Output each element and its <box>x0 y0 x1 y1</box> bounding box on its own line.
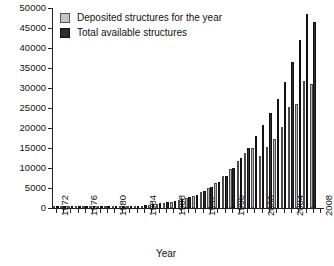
x-axis-tick-mark <box>188 209 189 213</box>
x-axis-tick-mark <box>159 209 160 213</box>
x-axis-tick-label: 2008 <box>324 195 334 216</box>
bar-total <box>56 206 58 208</box>
bar-total <box>203 191 205 208</box>
x-axis-tick-mark <box>225 209 226 213</box>
bar-total <box>93 206 95 208</box>
bar-total <box>269 113 271 208</box>
bar-total <box>196 195 198 208</box>
y-axis-tick-label: 35000 <box>0 63 46 73</box>
bar-deposited <box>112 206 114 208</box>
bar-deposited <box>53 206 55 208</box>
bar-deposited <box>295 104 297 209</box>
bar-total <box>255 136 257 208</box>
bar-total <box>299 40 301 208</box>
x-axis-tick-mark <box>78 209 79 213</box>
x-axis-tick-mark <box>262 209 263 213</box>
x-axis-tick-mark <box>313 209 314 213</box>
bar-total <box>232 168 234 208</box>
bars-layer <box>52 8 324 208</box>
bar-total <box>277 99 279 208</box>
x-axis-tick-mark <box>144 209 145 213</box>
x-axis-tick-mark <box>210 209 211 213</box>
bar-deposited <box>266 147 268 208</box>
bar-total <box>247 148 249 208</box>
bar-deposited <box>126 206 128 208</box>
bar-deposited <box>60 206 62 208</box>
x-axis-tick-mark <box>173 209 174 213</box>
y-axis-tick-label: 10000 <box>0 163 46 173</box>
x-axis-tick-mark <box>284 209 285 213</box>
y-axis-tick-label: 25000 <box>0 103 46 113</box>
bar-deposited <box>170 202 172 208</box>
x-axis-tick-mark <box>151 209 152 213</box>
x-axis-tick-mark <box>63 209 64 213</box>
x-axis-tick-mark <box>114 209 115 213</box>
x-axis-tick-mark <box>181 209 182 213</box>
bar-total <box>78 206 80 208</box>
x-axis-tick-mark <box>291 209 292 213</box>
y-axis-tick-label: 5000 <box>0 183 46 193</box>
bar-deposited <box>75 206 77 208</box>
bar-total <box>63 206 65 208</box>
x-axis-tick-mark <box>137 209 138 213</box>
bar-total <box>122 206 124 208</box>
y-axis-tick-label: 45000 <box>0 23 46 33</box>
bar-total <box>218 182 220 208</box>
bar-deposited <box>134 206 136 208</box>
y-axis-tick-label: 30000 <box>0 83 46 93</box>
x-axis-title: Year <box>0 248 332 259</box>
x-axis-tick-mark <box>92 209 93 213</box>
x-axis-tick-mark <box>56 209 57 213</box>
bar-deposited <box>185 198 187 208</box>
y-axis-tick-label: 40000 <box>0 43 46 53</box>
bar-total <box>225 176 227 208</box>
bar-total <box>130 206 132 208</box>
bar-total <box>85 206 87 208</box>
x-axis-tick-mark <box>129 209 130 213</box>
y-axis-tick-label: 15000 <box>0 143 46 153</box>
bar-deposited <box>244 153 246 208</box>
y-axis-tick-mark <box>48 208 52 209</box>
y-axis-tick-label: 20000 <box>0 123 46 133</box>
bar-total <box>152 204 154 208</box>
bar-total <box>115 206 117 208</box>
bar-deposited <box>310 84 312 208</box>
x-axis-tick-mark <box>217 209 218 213</box>
bar-deposited <box>229 169 231 208</box>
bar-deposited <box>288 107 290 208</box>
bar-deposited <box>119 206 121 208</box>
bar-total <box>137 206 139 208</box>
bar-deposited <box>273 139 275 208</box>
bar-deposited <box>178 200 180 208</box>
bar-deposited <box>237 161 239 208</box>
bar-deposited <box>156 204 158 208</box>
x-axis-tick-mark <box>306 209 307 213</box>
x-axis-tick-mark <box>320 209 321 213</box>
bar-total <box>166 202 168 208</box>
bar-total <box>100 206 102 208</box>
bar-total <box>284 82 286 208</box>
y-axis-tick-label: 50000 <box>0 3 46 13</box>
x-axis-tick-mark <box>70 209 71 213</box>
x-axis-tick-mark <box>166 209 167 213</box>
x-axis-tick-mark <box>122 209 123 213</box>
bar-deposited <box>163 203 165 208</box>
x-axis-tick-mark <box>247 209 248 213</box>
bar-deposited <box>148 205 150 208</box>
x-axis-tick-mark <box>195 209 196 213</box>
bar-deposited <box>222 176 224 208</box>
x-axis-tick-mark <box>203 209 204 213</box>
x-axis-tick-mark <box>298 209 299 213</box>
bar-deposited <box>67 206 69 208</box>
bar-deposited <box>104 206 106 208</box>
bar-total <box>181 199 183 208</box>
bar-deposited <box>89 206 91 208</box>
bar-deposited <box>281 127 283 208</box>
bar-deposited <box>200 192 202 208</box>
bar-total <box>313 22 315 208</box>
x-axis-tick-mark <box>239 209 240 213</box>
bar-total <box>188 197 190 208</box>
y-axis-tick-label: 0 <box>0 203 46 213</box>
bar-total <box>71 206 73 208</box>
